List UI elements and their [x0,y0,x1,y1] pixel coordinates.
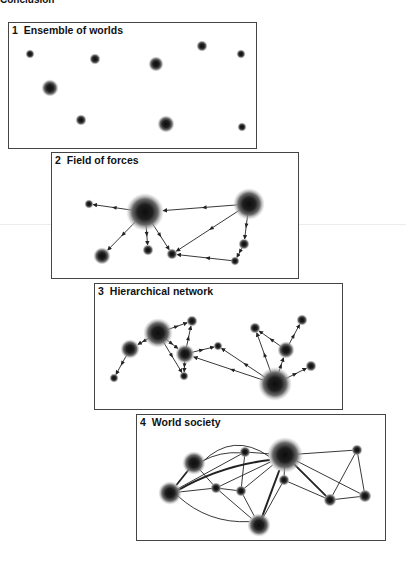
panel-hierarchical-network: 3Hierarchical network [94,283,343,410]
panel-world-society: 4World society [136,414,386,541]
panel-title: 1Ensemble of worlds [12,24,123,36]
panel-ensemble-of-worlds: 1Ensemble of worlds [8,22,257,149]
panel-title: 3Hierarchical network [98,285,213,297]
panel-number: 3 [98,285,104,297]
panel-field-of-forces: 2Field of forces [51,152,299,279]
panel-label: Ensemble of worlds [24,24,123,36]
panel-number: 4 [140,416,146,428]
panel-title: 4World society [140,416,221,428]
panel-label: Field of forces [67,154,139,166]
panel-label: Hierarchical network [110,285,213,297]
section-heading: Conclusion [0,0,54,5]
panel-number: 2 [55,154,61,166]
panel-title: 2Field of forces [55,154,139,166]
panel-number: 1 [12,24,18,36]
panel-label: World society [152,416,221,428]
